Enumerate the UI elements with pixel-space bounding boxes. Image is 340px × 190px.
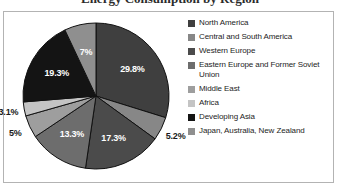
legend-swatch-icon <box>188 34 195 41</box>
legend-item: Japan, Australia, New Zealand <box>188 126 333 136</box>
legend-swatch-icon <box>188 114 195 121</box>
legend-swatch-icon <box>188 48 195 55</box>
pie-slice-value-label: 13.3% <box>60 129 85 139</box>
energy-consumption-pie-figure: Energy Consumption by Region 29.8%5.2%17… <box>0 0 340 190</box>
pie-slice-value-label: 3.1% <box>0 107 18 117</box>
legend-item: Africa <box>188 98 333 108</box>
legend-swatch-icon <box>188 100 195 107</box>
chart-panel: 29.8%5.2%17.3%13.3%5%3.1%19.3%7% North A… <box>3 11 334 183</box>
pie-svg <box>9 18 184 176</box>
pie-chart: 29.8%5.2%17.3%13.3%5%3.1%19.3%7% <box>9 18 184 176</box>
legend-item-label: Africa <box>199 98 219 108</box>
legend-item-label: Central and South America <box>199 32 292 42</box>
legend-item: Middle East <box>188 84 333 94</box>
legend-swatch-icon <box>188 62 195 69</box>
legend-swatch-icon <box>188 20 195 27</box>
legend-item: North America <box>188 18 333 28</box>
legend-swatch-icon <box>188 86 195 93</box>
legend-item-label: Eastern Europe and Former Soviet Union <box>199 60 333 80</box>
pie-slice-value-label: 5.2% <box>166 131 186 141</box>
chart-legend: North AmericaCentral and South AmericaWe… <box>188 18 333 140</box>
legend-item-label: Western Europe <box>199 46 255 56</box>
chart-title: Energy Consumption by Region <box>0 0 340 6</box>
pie-slice-group <box>23 23 169 169</box>
legend-item-label: Middle East <box>199 84 240 94</box>
legend-item-label: Developing Asia <box>199 112 255 122</box>
legend-item: Developing Asia <box>188 112 333 122</box>
pie-slice-value-label: 17.3% <box>101 133 126 143</box>
legend-item-label: Japan, Australia, New Zealand <box>199 126 305 136</box>
legend-item: Central and South America <box>188 32 333 42</box>
pie-slice-value-label: 29.8% <box>120 64 145 74</box>
pie-slice-value-label: 19.3% <box>45 68 70 78</box>
legend-swatch-icon <box>188 128 195 135</box>
chart-title-band: Energy Consumption by Region <box>0 0 340 7</box>
legend-item: Western Europe <box>188 46 333 56</box>
legend-item-label: North America <box>199 18 248 28</box>
pie-slice-value-label: 7% <box>80 47 93 57</box>
pie-slice-value-label: 5% <box>9 128 22 138</box>
legend-item: Eastern Europe and Former Soviet Union <box>188 60 333 80</box>
